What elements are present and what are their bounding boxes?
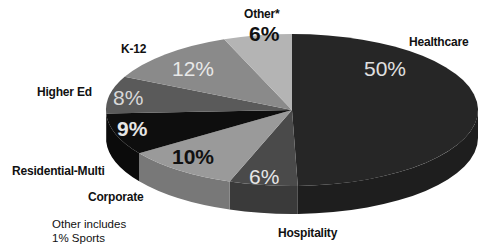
pie-slices xyxy=(106,34,478,186)
pct-other: 6% xyxy=(249,22,279,46)
pct-healthcare: 50% xyxy=(364,57,406,81)
label-k12: K-12 xyxy=(121,42,146,56)
label-corporate: Corporate xyxy=(88,190,144,204)
pct-hospitality: 6% xyxy=(249,165,279,189)
label-hospitality: Hospitality xyxy=(278,226,337,240)
label-other: Other* xyxy=(244,7,279,21)
pct-corporate: 10% xyxy=(172,145,214,169)
pie-chart xyxy=(0,0,479,249)
footnote-line-1: Other includes xyxy=(52,217,126,231)
label-healthcare: Healthcare xyxy=(409,35,468,49)
footnote: Other includes 1% Sports xyxy=(52,217,126,245)
pct-residential-multi: 9% xyxy=(117,117,147,141)
label-residential-multi: Residential-Multi xyxy=(12,164,105,178)
label-higher-ed: Higher Ed xyxy=(37,85,92,99)
pct-k12: 12% xyxy=(172,57,214,81)
footnote-line-2: 1% Sports xyxy=(52,231,126,245)
pct-higher-ed: 8% xyxy=(113,86,143,110)
